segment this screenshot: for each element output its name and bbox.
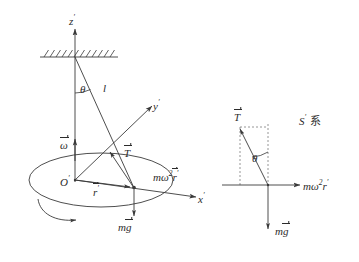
- frame-label: S′ 系: [299, 114, 321, 127]
- omega-label: ω: [60, 140, 68, 151]
- diagram-canvas: [0, 0, 359, 262]
- x-axis-label: x′: [198, 192, 205, 205]
- pendulum-bob: [132, 186, 136, 190]
- left-diagram-group: [29, 29, 196, 220]
- rotation-direction-arrow: [38, 199, 76, 220]
- orbit-ellipse: [29, 153, 173, 207]
- force-origin-point: [267, 184, 269, 186]
- theta-label-right: θ: [252, 153, 257, 164]
- string-length-label: l: [103, 83, 106, 94]
- radius-vector: [75, 180, 130, 187]
- centrifugal-label-right: mω2r′: [303, 179, 328, 192]
- ceiling-support: [40, 50, 118, 57]
- weight-label-right: mg: [275, 226, 288, 237]
- pendulum-string: [75, 57, 134, 188]
- origin-label: O′: [60, 175, 70, 188]
- radius-label: r′: [93, 185, 99, 198]
- tension-label-right: T: [234, 112, 240, 123]
- physics-diagram-figure: z′ y′ x′ O′ l θ ω T r′ mω2r′ mg T θ mω2r…: [0, 0, 359, 262]
- tension-vector: [110, 152, 134, 188]
- centrifugal-label-left: mω2r′: [153, 170, 178, 183]
- ceiling-hatching: [44, 50, 115, 57]
- theta-label: θ: [80, 84, 85, 95]
- right-diagram-group: [222, 124, 300, 229]
- origin-point: [74, 179, 76, 181]
- z-axis-label: z′: [69, 14, 75, 27]
- weight-label-left: mg: [118, 222, 131, 233]
- y-axis-label: y′: [153, 99, 160, 112]
- tension-label: T: [124, 148, 130, 159]
